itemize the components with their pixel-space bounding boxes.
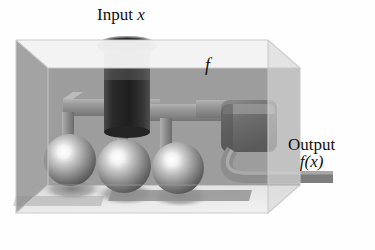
cylinder-bottom: [104, 126, 150, 138]
black-box-function-diagram: [0, 0, 375, 250]
input-label-variable: x: [137, 5, 145, 24]
output-label-line2: f(x): [288, 153, 335, 171]
sphere-1: [44, 134, 96, 186]
output-pipe-exterior-highlight: [300, 171, 333, 175]
sphere-3: [152, 142, 204, 194]
figure-canvas: Input x f Output f(x): [0, 0, 375, 250]
box-top-face: [16, 40, 300, 68]
input-label: Input x: [97, 6, 145, 24]
input-label-text: Input: [97, 5, 133, 24]
output-label: Output f(x): [288, 136, 335, 171]
function-label: f: [205, 56, 210, 75]
box-left-face: [16, 40, 48, 213]
cube-left-shade: [221, 104, 233, 152]
box-right-face: [268, 40, 300, 213]
